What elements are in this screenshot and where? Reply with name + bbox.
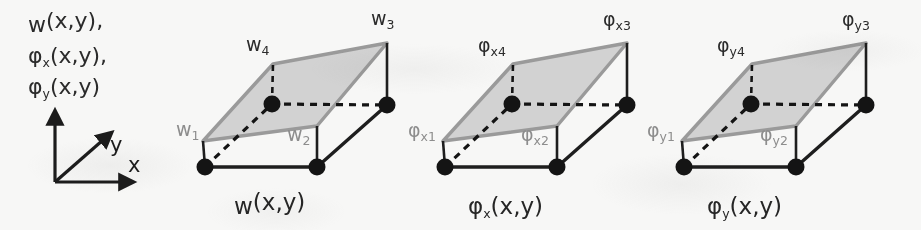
node-n2-phi-x[interactable] xyxy=(549,159,566,176)
axis-label-x: x xyxy=(128,153,140,177)
node-n3-phi-x[interactable] xyxy=(619,97,636,114)
node-n4-phi-x[interactable] xyxy=(504,96,521,113)
panel-caption-phi-x: φx(x,y) xyxy=(468,193,543,221)
node-n1-phi-x[interactable] xyxy=(437,159,454,176)
panel-caption-w: w(x,y) xyxy=(234,189,305,219)
node-n2-w[interactable] xyxy=(309,159,326,176)
field-variable-legend: w(x,y), φx(x,y), φy(x,y) xyxy=(28,8,107,101)
node-n4-w[interactable] xyxy=(264,96,281,113)
node-n1-phi-y[interactable] xyxy=(676,159,693,176)
axis-label-y: y xyxy=(110,133,122,157)
legend-line-3: φy(x,y) xyxy=(28,74,100,101)
legend-line-2: φx(x,y), xyxy=(28,43,107,70)
node-n3-phi-y[interactable] xyxy=(858,97,875,114)
node-n3-w[interactable] xyxy=(379,97,396,114)
plate-dof-diagram: w(x,y), φx(x,y), φy(x,y) y x w1 w2 xyxy=(0,0,921,230)
node-n2-phi-y[interactable] xyxy=(788,159,805,176)
panel-caption-phi-y: φy(x,y) xyxy=(707,193,782,221)
legend-line-1: w(x,y), xyxy=(28,8,103,37)
node-n1-w[interactable] xyxy=(197,159,214,176)
node-n4-phi-y[interactable] xyxy=(743,96,760,113)
figure-canvas: w(x,y), φx(x,y), φy(x,y) y x w1 w2 xyxy=(0,0,921,230)
